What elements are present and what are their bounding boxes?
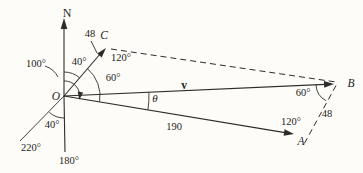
diagram-canvas: N O C B A v θ 48 190 48 100° 40° 60° 120…	[0, 0, 363, 173]
vector-bearing-diagram: N O C B A v θ 48 190 48 100° 40° 60° 120…	[0, 0, 363, 173]
ab-magnitude-label: 48	[322, 108, 333, 119]
angle-120-c-label: 120°	[111, 52, 131, 63]
south-axis-line	[64, 96, 65, 152]
point-b-label: B	[347, 77, 354, 89]
dashed-cb-line	[111, 49, 336, 82]
vector-v-line	[64, 84, 325, 96]
oc-magnitude-leader	[91, 41, 97, 53]
angle-60-o-arc	[88, 69, 100, 102]
angle-60-b-label: 60°	[296, 87, 311, 98]
point-a-label: A	[296, 135, 305, 147]
point-c-label: C	[100, 29, 108, 41]
bearing-100-leader	[45, 66, 58, 77]
theta-label: θ	[152, 92, 158, 104]
angle-60-o-label: 60°	[106, 72, 121, 83]
bearing-40-bottom-arc	[49, 112, 64, 118]
vector-oa-arrowhead-icon	[284, 129, 294, 136]
bearing-180-label: 180°	[59, 155, 79, 166]
vector-v-label: v	[181, 79, 187, 91]
bearing-220-label: 220°	[21, 142, 41, 153]
bearing-40-arc	[64, 72, 80, 78]
angle-120-a-label: 120°	[281, 116, 301, 127]
bearing-40-label: 40°	[72, 56, 87, 67]
north-label: N	[63, 6, 72, 20]
theta-arc	[148, 92, 149, 110]
origin-label: O	[52, 90, 61, 102]
angle-40-bottom-label: 40°	[45, 119, 60, 130]
vector-v-arrowhead-icon	[324, 81, 334, 88]
oc-magnitude-label: 48	[85, 28, 96, 39]
oa-magnitude-label: 190	[166, 121, 182, 132]
bearing-100-label: 100°	[26, 58, 46, 69]
